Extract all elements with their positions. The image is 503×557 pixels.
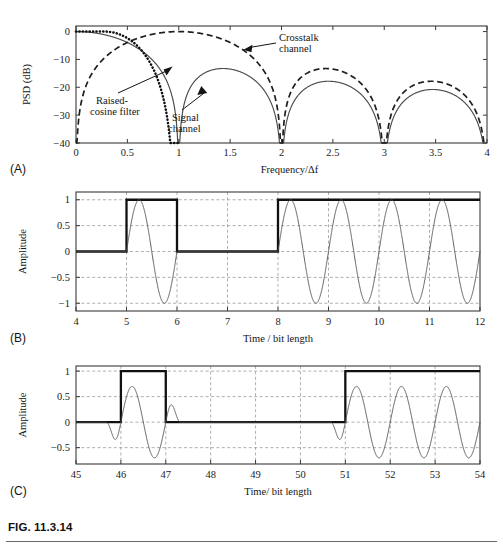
arrowhead-signal: [197, 86, 207, 95]
x-tick-label-9: 54: [475, 469, 486, 480]
y-tick-label-1: 0.5: [57, 391, 70, 402]
panel-a-xlabel: Frequency/Δf: [261, 164, 319, 175]
x-tick-label-8: 53: [430, 469, 441, 480]
x-tick-label-4: 8: [275, 316, 280, 327]
x-tick-label-1: 0.5: [121, 147, 134, 158]
panel-letter-a: (A): [10, 162, 26, 176]
panel-a-ylabel: PSD (dB): [21, 63, 33, 105]
panel-c-filtered-waveform: 4546474849505152535410.50−0.5Time/ bit l…: [0, 354, 503, 514]
y-tick-label-4: −1: [59, 298, 70, 309]
panel-letter-b: (B): [10, 331, 26, 345]
panel-b-xlabel: Time / bit length: [243, 333, 314, 344]
x-tick-label-1: 46: [116, 469, 127, 480]
panel-c-xlabel: Time/ bit length: [244, 486, 312, 497]
arrowhead-raised-cosine: [164, 66, 173, 75]
panel-letter-c: (C): [10, 484, 27, 498]
y-tick-label-2: −20: [54, 82, 70, 93]
y-tick-label-1: −10: [54, 54, 70, 65]
y-tick-label-3: −0.5: [51, 442, 70, 453]
x-tick-label-0: 4: [73, 316, 79, 327]
figure-caption: FIG. 11.3.14: [8, 521, 73, 533]
panel-c-ylabel: Amplitude: [17, 392, 28, 437]
annot-signal-line1: Signal: [172, 112, 199, 123]
x-tick-label-2: 47: [161, 469, 172, 480]
x-tick-label-0: 0: [73, 147, 78, 158]
y-tick-label-0: 1: [65, 194, 70, 205]
panel-c-svg: 4546474849505152535410.50−0.5Time/ bit l…: [0, 354, 503, 514]
figure-root: 00.511.522.533.540−10−20−30−40Crosstalkc…: [0, 0, 503, 557]
x-tick-label-3: 48: [205, 469, 216, 480]
y-tick-label-3: −30: [54, 110, 70, 121]
annot-signal-line2: channel: [168, 123, 201, 134]
y-tick-label-2: 0: [65, 417, 70, 428]
annot-raised-line1: Raised-: [96, 95, 129, 106]
x-tick-label-6: 10: [374, 316, 385, 327]
x-tick-label-5: 9: [326, 316, 331, 327]
panel-a-psd-spectrum: 00.511.522.533.540−10−20−30−40Crosstalkc…: [0, 0, 503, 178]
x-tick-label-0: 45: [71, 469, 82, 480]
x-tick-label-4: 2: [279, 147, 284, 158]
y-tick-label-4: −40: [54, 138, 70, 149]
x-tick-label-3: 1.5: [224, 147, 237, 158]
x-tick-label-7: 11: [424, 316, 434, 327]
y-tick-label-1: 0.5: [57, 220, 70, 231]
x-tick-label-8: 4: [484, 147, 490, 158]
x-tick-label-4: 49: [250, 469, 261, 480]
x-tick-label-5: 2.5: [326, 147, 339, 158]
y-tick-label-0: 1: [65, 366, 70, 377]
x-tick-label-5: 50: [295, 469, 306, 480]
x-tick-label-3: 7: [225, 316, 230, 327]
caption-rule: [6, 541, 497, 542]
panel-b-ylabel: Amplitude: [17, 229, 28, 274]
x-tick-label-2: 1: [176, 147, 181, 158]
y-tick-label-2: 0: [65, 246, 70, 257]
annot-crosstalk-line1: Crosstalk: [279, 32, 319, 43]
x-tick-label-8: 12: [475, 316, 486, 327]
panel-b-unfiltered-waveform: 45678910111210.50−0.5−1Time / bit length…: [0, 178, 503, 354]
panel-b-svg: 45678910111210.50−0.5−1Time / bit length…: [0, 178, 503, 354]
panel-a-svg: 00.511.522.533.540−10−20−30−40Crosstalkc…: [0, 0, 503, 178]
x-tick-label-6: 3: [382, 147, 387, 158]
x-tick-label-2: 6: [174, 316, 179, 327]
x-tick-label-7: 3.5: [429, 147, 442, 158]
x-tick-label-7: 52: [385, 469, 396, 480]
leader-crosstalk: [248, 43, 276, 48]
curve-raised-cosine-filter: [76, 32, 181, 143]
panel-c-frame: [76, 366, 480, 464]
y-tick-label-0: 0: [65, 26, 70, 37]
y-tick-label-3: −0.5: [51, 272, 70, 283]
x-tick-label-1: 5: [124, 316, 129, 327]
annot-crosstalk-line2: channel: [279, 43, 312, 54]
annot-raised-line2: cosine filter: [90, 106, 140, 117]
x-tick-label-6: 51: [340, 469, 351, 480]
